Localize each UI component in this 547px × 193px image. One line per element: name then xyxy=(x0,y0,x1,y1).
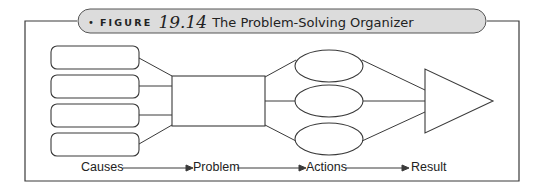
cause-box-4[interactable] xyxy=(51,133,139,156)
figure-header: • FIGURE 19.14 The Problem-Solving Organ… xyxy=(88,11,414,33)
flow-label-causes: Causes xyxy=(81,160,123,174)
problem-connectors xyxy=(265,60,296,141)
action-connectors xyxy=(362,60,425,141)
figure-title: The Problem-Solving Organizer xyxy=(212,15,413,30)
bullet-icon: • xyxy=(88,17,94,28)
arrowhead-icon xyxy=(299,165,306,171)
flow-arrows xyxy=(123,165,409,171)
arrowhead-icon xyxy=(402,165,409,171)
flow-label-actions: Actions xyxy=(306,160,347,174)
problem-box[interactable] xyxy=(172,76,265,126)
flow-label-problem: Problem xyxy=(193,160,240,174)
action-ellipse-2[interactable] xyxy=(295,85,363,117)
action-ellipse-3[interactable] xyxy=(295,123,363,155)
figure-label: FIGURE xyxy=(100,17,153,28)
cause-box-1[interactable] xyxy=(51,46,139,69)
action-ellipse-1[interactable] xyxy=(295,50,363,82)
figure-number: 19.14 xyxy=(158,12,207,32)
arrowhead-icon xyxy=(186,165,193,171)
result-triangle[interactable] xyxy=(425,69,493,133)
cause-box-3[interactable] xyxy=(51,104,139,127)
cause-box-2[interactable] xyxy=(51,75,139,98)
flow-label-result: Result xyxy=(411,160,446,174)
cause-connectors xyxy=(139,58,172,144)
